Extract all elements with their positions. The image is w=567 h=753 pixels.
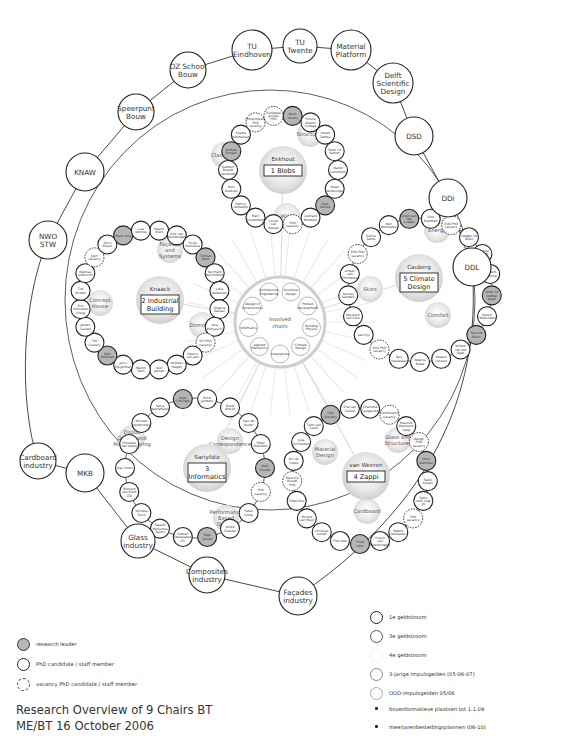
member-node: EOS PhDvacancy [348, 245, 367, 264]
phd-staff-swatch [17, 658, 30, 671]
involved-chair-label: ClimateDesign [295, 343, 307, 350]
member-node: RosacoLocesro [432, 349, 451, 368]
member-name: CharlotteLangeveld [362, 405, 378, 412]
outer-node-ddl: DDL [453, 248, 491, 286]
member-node: MauriceBokhoornIlang [397, 417, 416, 436]
member-node: Paul deRuiter [239, 414, 258, 433]
chair-leader-name: Knaack [150, 286, 171, 292]
member-node: RobertRenkama [389, 523, 408, 542]
member-node: CharlotteLangeveld [361, 399, 380, 418]
outer-node-glass-industry: Glassindustry [121, 524, 155, 558]
topic-label: Comfort [427, 312, 448, 318]
member-name: JeroenCassen [79, 323, 90, 330]
page-title-line1: Research Overview of 9 Chairs BT [16, 703, 212, 717]
member-node: PeterBoeremo [251, 435, 270, 454]
member-name: LeonardBroekers [304, 214, 318, 221]
member-node: ColinevanWessel [264, 215, 283, 234]
member-node: Rui deVreke [284, 451, 303, 470]
member-name: ReinhardMarrindhen [206, 270, 224, 277]
legend-label-3jarige: 3-jarige impulsgelden (05-06-07) [389, 671, 475, 677]
member-node: Bernardvan BlomLTD [120, 482, 139, 501]
outer-node-label: DSD [406, 132, 422, 141]
chair-name: 2 IndustrialBuilding [141, 297, 178, 313]
legend-label-meerjaren: meerjarenbestedingsplannen (06-10) [389, 724, 486, 730]
outer-node-label: Façadesindustry [283, 588, 313, 605]
involved-chair-label: Informatics [240, 326, 258, 330]
topic-skins: Skins [357, 276, 383, 302]
member-node: OzerCiftcioglu [173, 390, 192, 409]
chair-leader-name: van Weeren [349, 462, 383, 468]
member-node: SanjaKarnamano [151, 398, 170, 417]
chair-hub-informatics: Sariyildiz3Informatics [183, 444, 231, 492]
chair-leader-name: Eekhout [272, 156, 296, 162]
member-node: MauricioKrasdtPhD [283, 472, 302, 491]
member-name: RobertRenkama [391, 529, 406, 536]
meerjaren-dot-icon [375, 725, 378, 728]
member-name: Paul deRuiter [243, 419, 254, 426]
topic-label: MaterialDesign [314, 446, 335, 459]
outer-node-tu-eindhoven: TUEindhoven [232, 30, 272, 70]
member-node: ProsperaVan Alphe [120, 435, 139, 454]
member-name: GerbertBrandtVanwood [221, 165, 235, 176]
member-name: MathiasOnstricht [78, 270, 93, 277]
member-node: KleineSathe [362, 228, 381, 247]
member-node: FabioKlasen [418, 472, 437, 491]
involved-chair-label: Installations [271, 352, 290, 356]
member-node: EuropeseprijzenPhD [264, 106, 283, 125]
member-node: AndreasHägler [167, 355, 186, 374]
topic-label: ConceptHouse [89, 297, 110, 309]
chair-hub-zappi: van Weeren4 Zappi [342, 452, 390, 500]
member-node: Hedger vdBoeit [459, 228, 478, 247]
legend-label-1e: 1e geldstroom [389, 614, 427, 620]
member-node: MichelaTurrin [132, 503, 151, 522]
chair-leader-name: Sariyildiz [194, 454, 219, 461]
member-name: Free Noe [333, 539, 347, 543]
member-node: Michielvan Muur [297, 509, 316, 528]
member-name: AndreasHägler [170, 361, 183, 368]
outer-node-label: MKB [77, 469, 93, 478]
vacancy-swatch [17, 678, 30, 691]
member-name: Marjoleinvan Esch [346, 313, 360, 320]
member-node: MartinTenpsneke [478, 307, 497, 326]
involved-chair-structural-design: StructuralDesign [282, 283, 300, 301]
impulsgelden-3jarige-swatch [370, 668, 383, 681]
member-name: YuwanTsebou [319, 131, 331, 138]
outer-node-material-platform: MaterialPlatform [331, 30, 371, 70]
member-node: ArdjanvanTimmeren [340, 264, 359, 283]
legend-label-vacancy: vacancy PhD candidate / staff member [36, 681, 137, 687]
member-name: KarelVollers [287, 112, 298, 119]
member-node: Mark Voss [114, 226, 133, 245]
chair-name: 4 Zappi [353, 473, 378, 481]
member-node: ReginaBokel [411, 353, 430, 372]
member-node: Peter vdBatten [325, 142, 344, 161]
member-node: Free Noe [330, 531, 349, 550]
legend-label-3e: 3e geldstroom [389, 633, 427, 639]
outer-node-label: Cardboardindustry [19, 453, 57, 470]
member-name: KleineSathe [366, 234, 376, 241]
page-title-line2: ME/BT 16 October 2006 [16, 719, 154, 733]
member-node: JuliaSchreudon [292, 433, 311, 452]
member-node: ShapiraDatsan [210, 300, 229, 319]
chair-name: 5 ClimateDesign [403, 275, 435, 291]
outer-node-speerpunt-bouw: SpeerpuntBouw [117, 94, 155, 130]
member-name: EOS PhDvacancy [444, 222, 458, 229]
member-name: MartijnVeltkamp [234, 202, 248, 209]
outer-node-label: KNAW [74, 168, 96, 177]
member-node: StanleyKanders [339, 286, 358, 305]
member-node: Tjerk vanLexel [304, 417, 323, 436]
member-name: FabioKlasen [423, 478, 433, 485]
member-node: AndrewBorgart [222, 142, 241, 161]
chair-name: 1 Blobs [271, 167, 296, 175]
member-name: Mark Voss [115, 234, 131, 238]
outer-node-fa-ades-industry: Façadesindustry [279, 577, 317, 615]
member-node: EOS PhDvacancy [442, 216, 461, 235]
topic-comfort: Comfort [425, 302, 451, 328]
member-node: ErnstJambers [198, 390, 217, 409]
member-name: EOS PhDvacancy [373, 346, 387, 353]
member-node: Andy vdDobbelstaan [482, 286, 501, 305]
member-name: ProsperaVan Alphe [121, 441, 137, 448]
outer-node-delft-scientific-design: DelftScientificDesign [373, 63, 413, 103]
outer-node-label: DDL [464, 263, 479, 272]
outer-node-label: DDi [441, 194, 454, 203]
involved-chairs-hub: InvolvedchairsArchitecturalEngineeringSt… [235, 277, 325, 367]
